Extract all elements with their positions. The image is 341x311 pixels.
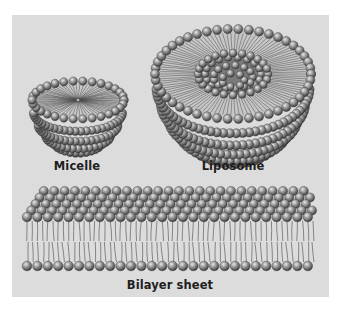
micelle-illustration <box>28 77 128 157</box>
liposome-label: Liposome <box>202 159 265 173</box>
micelle-label: Micelle <box>54 159 100 173</box>
lipid-structures-illustration <box>0 0 341 311</box>
bilayer-sheet-illustration <box>22 186 316 270</box>
bilayer-sheet-label: Bilayer sheet <box>127 278 213 292</box>
liposome-illustration <box>150 25 315 169</box>
